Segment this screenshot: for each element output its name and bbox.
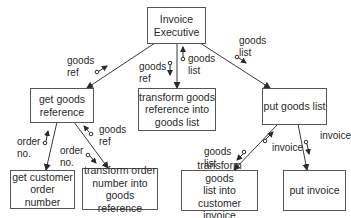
couple-label: invoice [272, 142, 303, 154]
module-label: put goods list [264, 100, 326, 113]
module-invoice-executive: Invoice Executive [147, 7, 206, 44]
module-label: Invoice Executive [154, 13, 200, 38]
couple-label: goods ref [67, 55, 94, 79]
module-label: transform order number into goods refere… [83, 164, 157, 214]
couple-data-icon [86, 153, 90, 157]
couple-label: goods list [204, 146, 231, 170]
couple-data-icon [263, 139, 267, 143]
couple-data-icon [304, 140, 308, 144]
couple-data-icon [95, 70, 99, 74]
module-label: get goods reference [39, 93, 85, 118]
couple-label: order no. [60, 145, 83, 169]
call-ggr-to-get-customer-order [46, 122, 57, 170]
module-label: put invoice [289, 184, 339, 197]
couple-data-icon [181, 57, 185, 61]
module-put-invoice: put invoice [283, 170, 346, 211]
couple-data-icon [89, 132, 93, 136]
module-get-customer-order-number: get customer order number [10, 170, 75, 209]
couple-label: goods ref [99, 124, 126, 148]
module-label: get customer order number [11, 171, 74, 209]
module-transform-goods-reference: transform goods reference into goods lis… [138, 88, 216, 131]
couple-data-icon [43, 141, 47, 145]
couple-label: goods ref [139, 61, 166, 85]
couple-data-icon [242, 150, 246, 154]
module-label: transform goods reference into goods lis… [139, 91, 215, 129]
module-put-goods-list: put goods list [262, 88, 327, 125]
couple-data-icon [168, 61, 172, 65]
module-transform-order-number: transform order number into goods refere… [82, 168, 158, 210]
module-transform-goods-list: transform goods list into customer invoi… [181, 170, 258, 211]
module-get-goods-reference: get goods reference [30, 88, 94, 123]
couple-label: invoice [320, 130, 351, 142]
couple-label: goods list [239, 35, 266, 59]
couple-label: order no. [17, 136, 40, 160]
couple-label: goods list [188, 53, 215, 77]
